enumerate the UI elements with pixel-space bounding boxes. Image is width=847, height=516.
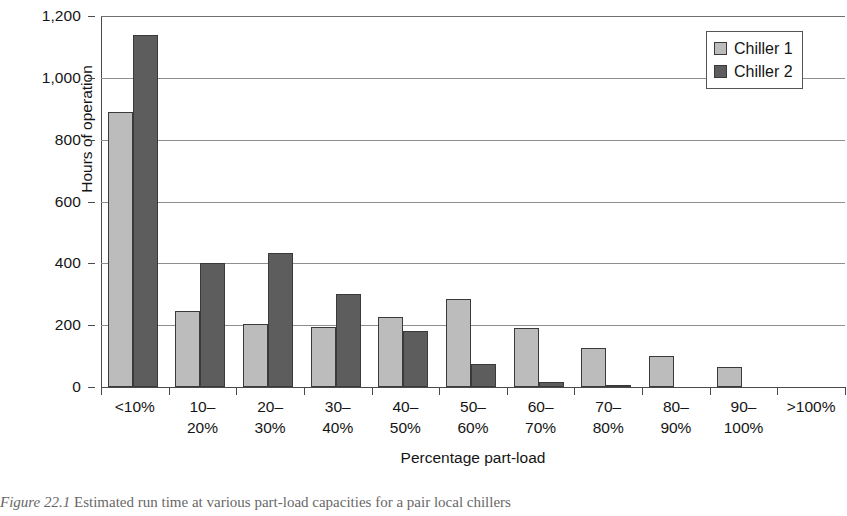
legend-swatch-icon — [714, 42, 727, 55]
bar-chart: Hours of operation 02004006008001,0001,2… — [0, 0, 847, 448]
x-axis-tick-label: 40– 50% — [372, 396, 440, 438]
y-axis-tick — [88, 78, 95, 79]
y-axis-tick — [88, 387, 95, 388]
bar-group — [372, 16, 440, 387]
legend-item: Chiller 1 — [714, 37, 793, 60]
y-axis-labels: 02004006008001,0001,200 — [0, 16, 95, 387]
x-axis-tick — [439, 387, 440, 395]
bar-chiller-1 — [108, 112, 133, 387]
bar-chiller-1 — [311, 327, 336, 387]
legend: Chiller 1Chiller 2 — [706, 31, 803, 89]
legend-swatch-icon — [714, 65, 727, 78]
bar-group — [574, 16, 642, 387]
bar-chiller-2 — [336, 294, 361, 387]
bar-chiller-1 — [581, 348, 606, 387]
bar-chiller-2 — [606, 385, 631, 387]
bar-chiller-1 — [649, 356, 674, 387]
bar-chiller-2 — [200, 263, 225, 387]
x-axis-baseline — [101, 387, 845, 388]
y-axis-tick-label: 800 — [55, 131, 81, 149]
bar-chiller-1 — [446, 299, 471, 387]
y-axis-tick — [88, 325, 95, 326]
bar-group — [169, 16, 237, 387]
x-axis-tick-label: 10– 20% — [169, 396, 237, 438]
x-axis-tick — [169, 387, 170, 395]
x-axis-tick-label: 20– 30% — [236, 396, 304, 438]
x-axis-tick — [304, 387, 305, 395]
x-axis-tick-label: 60– 70% — [507, 396, 575, 438]
bar-group — [236, 16, 304, 387]
x-axis-tick-label: >100% — [777, 396, 845, 417]
bar-group — [642, 16, 710, 387]
x-axis-tick — [507, 387, 508, 395]
figure-caption: Figure 22.1 Estimated run time at variou… — [0, 494, 847, 516]
legend-label: Chiller 2 — [734, 63, 793, 81]
legend-item: Chiller 2 — [714, 60, 793, 83]
bar-chiller-1 — [243, 324, 268, 387]
x-axis-tick — [710, 387, 711, 395]
x-axis-tick — [642, 387, 643, 395]
caption-text: Estimated run time at various part-load … — [70, 494, 511, 510]
x-axis-tick-label: 30– 40% — [304, 396, 372, 438]
y-axis-tick-label: 1,000 — [42, 69, 81, 87]
bar-group — [304, 16, 372, 387]
x-axis-tick-label: 90– 100% — [710, 396, 778, 438]
bar-chiller-2 — [471, 364, 496, 387]
y-axis-tick — [88, 140, 95, 141]
bar-chiller-1 — [378, 317, 403, 387]
bar-chiller-2 — [403, 331, 428, 387]
y-axis-tick-label: 1,200 — [42, 7, 81, 25]
y-axis-tick — [88, 263, 95, 264]
bar-chiller-1 — [717, 367, 742, 387]
bar-chiller-2 — [133, 35, 158, 387]
y-axis-tick-label: 200 — [55, 316, 81, 334]
bar-chiller-1 — [175, 311, 200, 387]
y-axis-tick-label: 600 — [55, 193, 81, 211]
x-axis-tick — [101, 387, 102, 395]
y-axis-tick-label: 0 — [72, 378, 81, 396]
caption-number: Figure 22.1 — [0, 494, 70, 510]
bar-group — [507, 16, 575, 387]
y-axis-tick — [88, 202, 95, 203]
x-axis-tick-label: 70– 80% — [574, 396, 642, 438]
x-axis-title: Percentage part-load — [101, 449, 845, 467]
bar-group — [439, 16, 507, 387]
bar-chiller-2 — [539, 382, 564, 387]
figure-22-1: Hours of operation 02004006008001,0001,2… — [0, 0, 847, 516]
x-axis-tick — [236, 387, 237, 395]
bar-chiller-2 — [268, 253, 293, 387]
x-axis-tick-label: <10% — [101, 396, 169, 417]
x-axis-tick-label: 50– 60% — [439, 396, 507, 438]
x-axis-tick-label: 80– 90% — [642, 396, 710, 438]
bar-chiller-1 — [514, 328, 539, 387]
y-axis-tick-label: 400 — [55, 254, 81, 272]
x-axis-tick — [574, 387, 575, 395]
x-axis-labels: <10%10– 20%20– 30%30– 40%40– 50%50– 60%6… — [101, 396, 845, 448]
bar-group — [101, 16, 169, 387]
x-axis-tick — [372, 387, 373, 395]
y-axis-tick — [88, 16, 95, 17]
x-axis-tick — [777, 387, 778, 395]
x-axis-tick — [845, 387, 846, 395]
legend-label: Chiller 1 — [734, 40, 793, 58]
